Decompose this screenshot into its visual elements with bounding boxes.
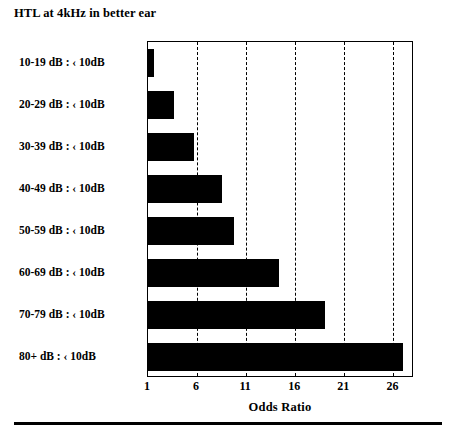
plot-area — [147, 41, 413, 377]
x-tick-label: 6 — [193, 379, 199, 394]
gridline-26 — [393, 42, 394, 376]
y-axis-label: 80+ dB : ‹ 10dB — [7, 349, 147, 363]
gridline-21 — [344, 42, 345, 376]
y-axis-label: 20-29 dB : ‹ 10dB — [7, 97, 147, 111]
y-axis-label: 10-19 dB : ‹ 10dB — [7, 55, 147, 69]
bar — [148, 91, 174, 119]
chart-title: HTL at 4kHz in better ear — [14, 6, 156, 21]
x-axis-tick-labels: 1611162126 — [0, 379, 456, 399]
y-axis-category-labels: 10-19 dB : ‹ 10dB20-29 dB : ‹ 10dB30-39 … — [0, 41, 147, 377]
bar — [148, 259, 279, 287]
y-axis-label: 70-79 dB : ‹ 10dB — [7, 307, 147, 321]
bar — [148, 301, 325, 329]
bar — [148, 217, 234, 245]
x-axis-title: Odds Ratio — [147, 400, 413, 415]
x-tick-label: 11 — [239, 379, 250, 394]
figure: HTL at 4kHz in better ear 10-19 dB : ‹ 1… — [0, 0, 456, 435]
bar — [148, 133, 194, 161]
y-axis-label: 40-49 dB : ‹ 10dB — [7, 181, 147, 195]
x-tick-label: 21 — [337, 379, 349, 394]
bar — [148, 175, 222, 203]
bar — [148, 49, 154, 77]
y-axis-label: 50-59 dB : ‹ 10dB — [7, 223, 147, 237]
x-tick-label: 16 — [288, 379, 300, 394]
x-tick-label: 1 — [144, 379, 150, 394]
y-axis-label: 30-39 dB : ‹ 10dB — [7, 139, 147, 153]
bottom-divider-rule — [14, 422, 442, 425]
bar — [148, 343, 403, 371]
y-axis-label: 60-69 dB : ‹ 10dB — [7, 265, 147, 279]
x-tick-label: 26 — [386, 379, 398, 394]
